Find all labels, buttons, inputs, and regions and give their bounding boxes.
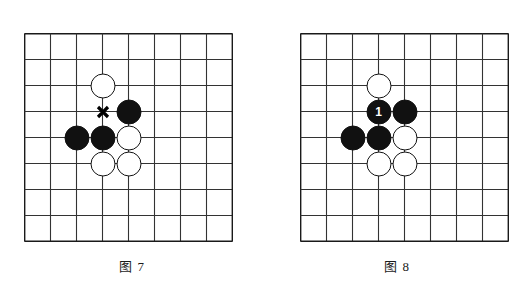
- figure-caption-8: 图 8: [265, 256, 529, 275]
- stone-black[interactable]: [116, 99, 141, 124]
- stone-move-number: 1: [375, 105, 382, 117]
- stone-white[interactable]: [116, 151, 141, 176]
- stone-white[interactable]: [90, 73, 115, 98]
- stone-white[interactable]: [366, 151, 391, 176]
- figure-caption-7: 图 7: [0, 256, 264, 275]
- stone-white[interactable]: [366, 73, 391, 98]
- figure-pair: 图 7 1 图 8: [0, 0, 529, 290]
- stone-black[interactable]: [340, 125, 365, 150]
- stone-black[interactable]: [64, 125, 89, 150]
- go-board-7[interactable]: [24, 33, 233, 242]
- stone-layer-8: 1: [300, 33, 509, 242]
- stone-black[interactable]: [366, 125, 391, 150]
- stone-white[interactable]: [392, 151, 417, 176]
- go-board-8[interactable]: 1: [300, 33, 509, 242]
- figure-7: 图 7: [0, 0, 264, 290]
- stone-layer-7: [24, 33, 233, 242]
- stone-white[interactable]: [116, 125, 141, 150]
- stone-white[interactable]: [90, 151, 115, 176]
- stone-black[interactable]: [90, 125, 115, 150]
- figure-8: 1 图 8: [265, 0, 529, 290]
- stone-black-numbered[interactable]: 1: [366, 99, 391, 124]
- stone-black[interactable]: [392, 99, 417, 124]
- x-mark-icon: [95, 104, 111, 120]
- stone-white[interactable]: [392, 125, 417, 150]
